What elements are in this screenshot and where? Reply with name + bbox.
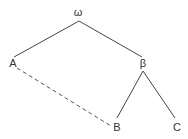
tree-diagram: ω A β B C — [0, 0, 188, 139]
node-C-label: C — [173, 121, 181, 133]
edge-beta-B — [117, 71, 143, 118]
edge-beta-C — [143, 71, 175, 118]
edge-omega-A — [14, 21, 79, 57]
node-B-label: B — [113, 121, 120, 133]
node-A-label: A — [9, 57, 17, 69]
node-omega-label: ω — [74, 6, 83, 18]
edge-A-B-dashed — [17, 68, 111, 126]
node-beta-label: β — [140, 57, 146, 69]
edge-omega-beta — [79, 21, 142, 57]
